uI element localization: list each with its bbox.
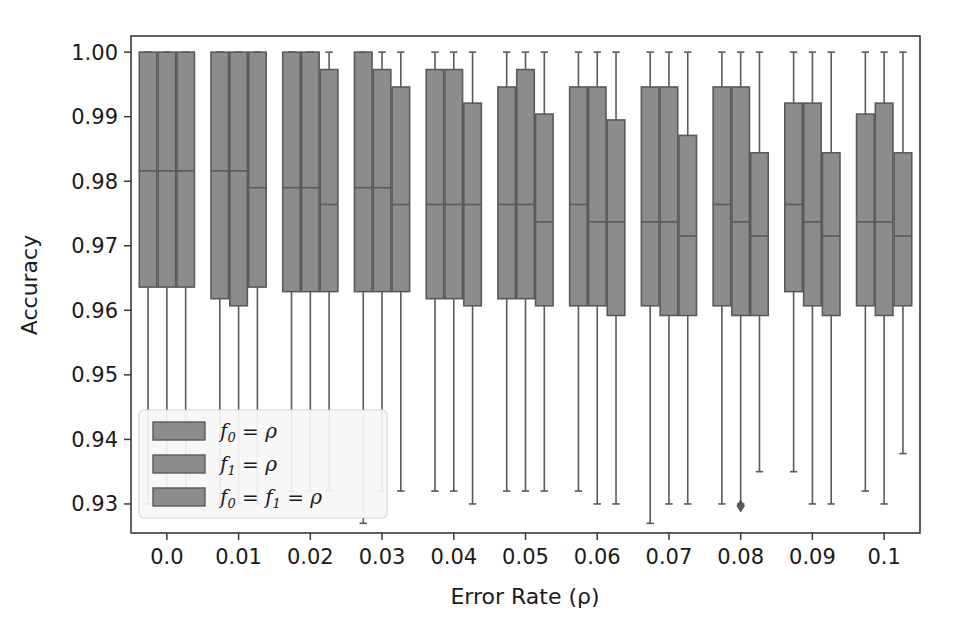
x-tick-label: 0.07 xyxy=(646,545,693,569)
box-body xyxy=(158,52,176,287)
box-body xyxy=(230,52,248,306)
box-body xyxy=(354,52,372,291)
x-tick-label: 0.06 xyxy=(574,545,621,569)
legend-swatch-f0 xyxy=(153,422,205,440)
y-tick-label: 1.00 xyxy=(71,41,118,65)
box-body xyxy=(679,135,697,315)
x-tick-label: 0.0 xyxy=(150,545,183,569)
box-body xyxy=(785,103,803,291)
x-tick-label: 0.04 xyxy=(430,545,477,569)
legend-label-f0: f0 = ρ xyxy=(218,419,277,445)
legend-swatch-f0f1 xyxy=(153,488,205,506)
box-body xyxy=(139,52,157,287)
legend-swatch-f1 xyxy=(153,455,205,473)
box-body xyxy=(392,87,410,292)
legend-label-f1: f1 = ρ xyxy=(218,452,277,478)
box-body xyxy=(249,52,267,287)
box-body xyxy=(517,70,535,299)
box-body xyxy=(536,114,554,306)
figure-canvas: 0.930.940.950.960.970.980.991.00 0.00.01… xyxy=(0,0,958,626)
box-body xyxy=(426,70,444,299)
box-body xyxy=(641,87,659,306)
box-body xyxy=(177,52,195,287)
box-body xyxy=(498,87,516,299)
box-body xyxy=(822,153,840,316)
box-body xyxy=(713,87,731,306)
y-tick-label: 0.94 xyxy=(71,428,118,452)
y-axis-label: Accuracy xyxy=(17,235,42,335)
box-body xyxy=(660,87,678,315)
box-body xyxy=(588,87,606,306)
y-tick-label: 0.98 xyxy=(71,170,118,194)
box-body xyxy=(445,70,463,299)
box-body xyxy=(283,52,301,291)
x-axis-label: Error Rate (ρ) xyxy=(450,584,599,609)
box-body xyxy=(732,87,750,315)
box-body xyxy=(894,153,912,306)
y-tick-label: 0.97 xyxy=(71,234,118,258)
x-tick-label: 0.09 xyxy=(789,545,836,569)
box-body xyxy=(751,153,769,316)
y-tick-label: 0.99 xyxy=(71,105,118,129)
x-tick-label: 0.02 xyxy=(287,545,334,569)
box-body xyxy=(607,120,625,316)
x-tick-label: 0.08 xyxy=(717,545,764,569)
x-tick-label: 0.03 xyxy=(359,545,406,569)
box-body xyxy=(570,87,588,306)
box-body xyxy=(302,52,320,291)
box-body xyxy=(211,52,229,299)
x-tick-label: 0.05 xyxy=(502,545,549,569)
y-tick-label: 0.93 xyxy=(71,492,118,516)
y-tick-label: 0.96 xyxy=(71,299,118,323)
box-plot-chart: 0.930.940.950.960.970.980.991.00 0.00.01… xyxy=(0,0,958,626)
x-tick-label: 0.1 xyxy=(867,545,900,569)
box-body xyxy=(320,70,338,292)
box-body xyxy=(857,114,875,306)
box-body xyxy=(875,103,893,315)
x-tick-label: 0.01 xyxy=(215,545,262,569)
box-body xyxy=(373,70,391,292)
chart-legend[interactable]: f0 = ρ f1 = ρ f0 = f1 = ρ xyxy=(139,410,387,518)
y-tick-label: 0.95 xyxy=(71,363,118,387)
box-body xyxy=(804,103,822,306)
